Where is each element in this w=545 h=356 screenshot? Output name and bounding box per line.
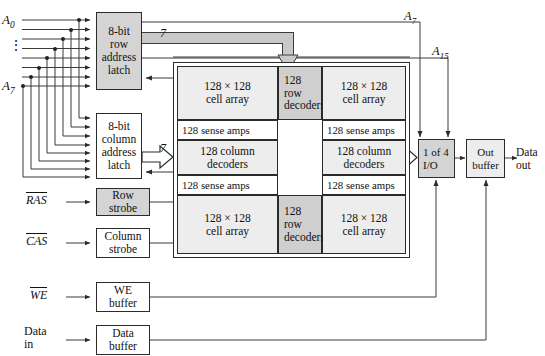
we-buffer-line2: buffer <box>109 297 137 310</box>
row-strobe-line2: strobe <box>109 202 137 215</box>
we-signal-label: WE <box>30 288 47 303</box>
ras-signal-label: RAS <box>26 193 47 208</box>
cell-array-line2: cell array <box>206 225 249 238</box>
cell-array-top-right: 128 × 128 cell array <box>322 66 406 120</box>
col-latch-line4: latch <box>108 159 130 172</box>
col-strobe-line2: strobe <box>109 243 137 256</box>
dram-block-diagram: A0 ⋮ A7 RAS CAS WE Datain 8-bit row addr… <box>0 0 545 356</box>
data-buffer-line1: Data <box>112 327 134 340</box>
address-a15-top-label: A15 <box>432 44 449 61</box>
row-dec-line2: row <box>284 218 302 231</box>
cell-array-line2: cell array <box>342 225 385 238</box>
row-decoders-top: 128 row decoders <box>278 66 322 120</box>
data-buffer-block: Data buffer <box>96 325 150 355</box>
cell-array-line1: 128 × 128 <box>204 212 251 225</box>
address-input-a0-label: A0 <box>2 12 15 30</box>
column-address-latch-block: 8-bit column address latch <box>96 113 142 179</box>
junction-dot <box>45 56 49 60</box>
address-a7-top-label: A7 <box>404 9 416 26</box>
cell-array-top-left: 128 × 128 cell array <box>177 66 278 120</box>
row-latch-line3: address <box>102 51 137 64</box>
data-buffer-line2: buffer <box>109 340 137 353</box>
junction-dot <box>21 84 25 88</box>
row-strobe-line1: Row <box>112 189 134 202</box>
row-dec-line1: 128 <box>284 205 301 218</box>
col-dec-line1: 128 column <box>337 145 392 158</box>
sense-amps-label: 128 sense amps <box>182 179 250 191</box>
cell-array-line1: 128 × 128 <box>204 80 251 93</box>
row-latch-line1: 8-bit <box>108 25 130 38</box>
column-bus-width-label: 7 <box>160 141 166 156</box>
io-line1: 1 of 4 <box>423 146 449 158</box>
col-latch-line3: address <box>102 146 137 159</box>
column-strobe-block: Column strobe <box>96 228 150 258</box>
junction-dot <box>37 66 41 70</box>
cell-array-line1: 128 × 128 <box>341 212 388 225</box>
sense-amps-bottom-left: 128 sense amps <box>177 175 278 195</box>
out-buffer-line1: Out <box>477 146 494 158</box>
sense-amps-label: 128 sense amps <box>327 124 395 136</box>
column-address-bus <box>142 146 173 168</box>
row-dec-line3: decoders <box>284 99 325 112</box>
data-out-label: Dataout <box>516 146 538 172</box>
junction-dot <box>77 18 81 22</box>
out-buffer-line2: buffer <box>472 159 499 171</box>
we-buffer-block: WE buffer <box>96 282 150 312</box>
row-latch-line2: row <box>110 38 128 51</box>
junction-dot <box>53 47 57 51</box>
row-dec-line2: row <box>284 87 302 100</box>
col-strobe-line1: Column <box>104 230 141 243</box>
we-buffer-line1: WE <box>114 284 132 297</box>
sense-amps-top-left: 128 sense amps <box>177 120 278 140</box>
column-decoders-right: 128 column decoders <box>322 140 406 175</box>
row-latch-line4: latch <box>108 64 130 77</box>
col-latch-line2: column <box>102 133 137 146</box>
cell-array-line1: 128 × 128 <box>341 80 388 93</box>
cell-array-line2: cell array <box>206 93 249 106</box>
one-of-four-io-block: 1 of 4 I/O <box>418 139 455 178</box>
junction-dot <box>61 37 65 41</box>
sense-amps-top-right: 128 sense amps <box>322 120 406 140</box>
io-line2: I/O <box>423 159 438 171</box>
address-ellipsis: ⋮ <box>9 40 23 51</box>
data-in-label: Datain <box>24 325 47 351</box>
row-dec-line1: 128 <box>284 74 301 87</box>
column-decoders-left: 128 column decoders <box>177 140 278 175</box>
cas-signal-label: CAS <box>26 234 47 249</box>
col-dec-line1: 128 column <box>200 145 255 158</box>
row-dec-line3: decoders <box>284 231 325 244</box>
row-decoders-bottom: 128 row decoders <box>278 195 322 254</box>
sense-amps-label: 128 sense amps <box>327 179 395 191</box>
sense-amps-label: 128 sense amps <box>182 124 250 136</box>
row-address-latch-block: 8-bit row address latch <box>96 12 142 90</box>
col-latch-line1: 8-bit <box>108 120 130 133</box>
cell-array-bottom-left: 128 × 128 cell array <box>177 195 278 254</box>
junction-dot <box>69 28 73 32</box>
row-bus-width-label: 7 <box>160 26 166 41</box>
junction-dot <box>29 75 33 79</box>
row-strobe-block: Row strobe <box>96 188 150 216</box>
cell-array-line2: cell array <box>342 93 385 106</box>
col-dec-line2: decoders <box>207 158 248 171</box>
sense-amps-bottom-right: 128 sense amps <box>322 175 406 195</box>
col-dec-line2: decoders <box>344 158 385 171</box>
cell-array-bottom-right: 128 × 128 cell array <box>322 195 406 254</box>
address-input-a7-label: A7 <box>2 78 15 96</box>
out-buffer-block: Out buffer <box>466 139 505 178</box>
